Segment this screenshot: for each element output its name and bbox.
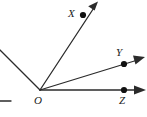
point-label-Y: Y [116, 47, 122, 58]
ray-O-Y-arrowhead [133, 56, 145, 65]
ray-O-upper-left [0, 50, 40, 90]
ray-O-Z-arrowhead [134, 86, 146, 95]
ray-O-X-arrowhead [88, 2, 98, 11]
point-Z-dot [121, 87, 127, 93]
point-label-Z: Z [119, 95, 125, 106]
point-Y-dot [121, 61, 127, 67]
point-X-dot [80, 12, 86, 18]
geometry-figure: X Y Z O [0, 0, 147, 117]
point-label-O: O [34, 95, 42, 106]
point-label-X: X [68, 8, 75, 19]
ray-O-X-line [40, 9, 94, 91]
